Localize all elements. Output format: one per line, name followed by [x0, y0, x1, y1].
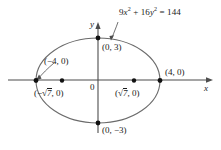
equation-exp-x: 2: [128, 6, 131, 12]
point-vertex-top: [96, 36, 101, 41]
vertex-left-label: (−4, 0): [44, 57, 69, 66]
equation-exp-y: 2: [154, 6, 157, 12]
equation-rhs: 144: [167, 7, 181, 17]
equation-equals: =: [160, 7, 165, 17]
y-axis-label: y: [90, 20, 94, 29]
vertex-top-label: (0, 3): [102, 43, 122, 52]
point-vertex-left: [34, 78, 39, 83]
vertex-right-label: (4, 0): [165, 68, 185, 77]
point-vertex-right: [158, 78, 163, 83]
equation-annotation: 9x2 + 16y2 = 144: [119, 8, 181, 17]
sqrt-icon: √7: [42, 88, 51, 98]
ellipse-figure: 9x2 + 16y2 = 144 y x 0 (−4, 0) (4, 0) (0…: [0, 0, 221, 150]
focus-left-open: (−: [34, 88, 42, 98]
equation-plus: +: [133, 7, 138, 17]
x-axis-label: x: [204, 84, 208, 93]
focus-left-label: (−√7, 0): [34, 88, 64, 98]
point-vertex-bottom: [96, 121, 101, 126]
focus-left-close: , 0): [52, 88, 64, 98]
equation-coef-y: 16: [141, 7, 150, 17]
vertex-bottom-label: (0, −3): [102, 126, 127, 135]
focus-right-label: (√7, 0): [115, 88, 139, 98]
focus-right-close: , 0): [127, 88, 139, 98]
point-focus-left: [60, 78, 64, 82]
origin-label: 0: [90, 83, 95, 92]
point-focus-right: [132, 78, 136, 82]
